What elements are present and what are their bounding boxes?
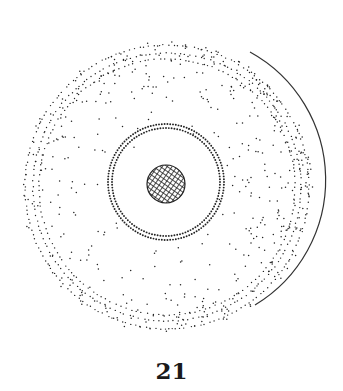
specimen-illustration	[0, 0, 343, 391]
outer-edge-line	[250, 52, 326, 305]
figure-number: 21	[0, 357, 343, 384]
nucleus	[147, 165, 185, 203]
